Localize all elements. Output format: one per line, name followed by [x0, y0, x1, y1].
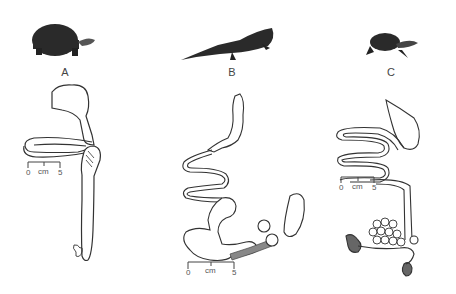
iguana-silhouette [181, 28, 273, 60]
panel-label-a: A [55, 66, 75, 78]
scale-b-start: 0 [186, 268, 190, 277]
scale-a-end: 5 [58, 168, 62, 177]
panel-label-c: C [381, 66, 401, 78]
scale-a-unit: cm [38, 167, 49, 176]
tract-c [337, 100, 420, 276]
scale-c-unit: cm [352, 182, 363, 191]
scale-a-start: 0 [26, 168, 30, 177]
scale-b-end: 5 [232, 268, 236, 277]
turtle-silhouette [366, 33, 418, 58]
scale-c-start: 0 [339, 183, 343, 192]
panel-label-b: B [222, 66, 242, 78]
tract-b [183, 94, 304, 261]
scale-b-unit: cm [205, 266, 216, 275]
scale-c-end: 5 [372, 183, 376, 192]
tortoise-silhouette [32, 24, 95, 56]
digestive-tract-diagram [0, 0, 456, 294]
